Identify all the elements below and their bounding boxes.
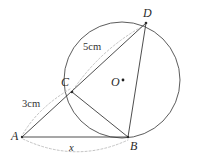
center-label-o: O [111,76,120,88]
center-dot-o [122,79,125,82]
measure-arc-ab [23,139,128,152]
measure-arc-ac [23,89,70,134]
figure-canvas [0,0,197,161]
point-label-b: B [130,140,137,152]
length-label-cd: 5cm [83,42,101,53]
segment-cb [72,92,128,137]
vertex-dot-c [71,91,74,94]
segment-db [128,23,146,137]
vertex-dot-d [145,22,148,25]
vertex-dot-b [127,136,129,138]
vertex-dot-a [21,136,23,138]
point-label-a: A [11,130,18,142]
length-label-ac: 3cm [22,99,40,110]
length-label-ab: x [69,143,74,154]
point-label-d: D [143,7,152,19]
geometry-figure: A B C D O 3cm 5cm x [0,0,197,161]
point-label-c: C [61,76,69,88]
